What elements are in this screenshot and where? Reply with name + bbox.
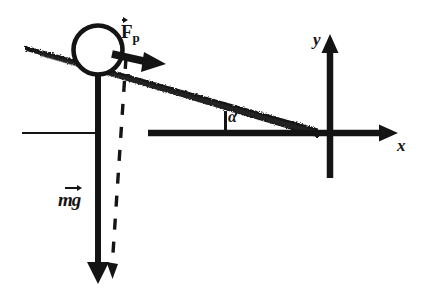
applied-force-subscript: p bbox=[133, 30, 140, 45]
gravity-symbol: g bbox=[72, 190, 82, 209]
applied-force-label: Fp bbox=[121, 22, 140, 44]
x-axis bbox=[148, 125, 398, 142]
x-axis-label: x bbox=[397, 137, 406, 154]
ball-on-incline bbox=[74, 26, 123, 75]
dashed-construction-line bbox=[107, 58, 127, 279]
diagram-canvas bbox=[0, 0, 422, 295]
gravity-vector-symbol: g bbox=[72, 190, 82, 209]
weight-label: mg bbox=[58, 190, 81, 209]
applied-force-vector-symbol: F bbox=[121, 22, 133, 41]
y-axis bbox=[322, 34, 339, 178]
inclined-plane bbox=[25, 46, 318, 138]
incline-angle-label: α bbox=[228, 109, 237, 125]
mass-symbol: m bbox=[58, 189, 73, 210]
physics-diagram-figure: Fp mg α y x bbox=[0, 0, 422, 295]
weight-force-arrow bbox=[87, 48, 109, 284]
y-axis-label: y bbox=[313, 31, 321, 48]
applied-force-symbol: F bbox=[121, 22, 133, 41]
